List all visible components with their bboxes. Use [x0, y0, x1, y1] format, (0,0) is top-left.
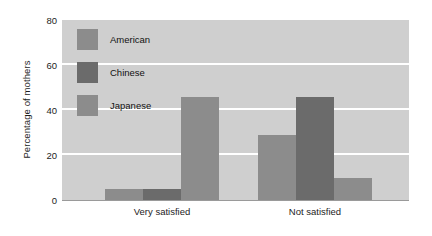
legend-label-american: American	[110, 34, 150, 45]
bar-very-satisfied-japanese	[181, 97, 219, 201]
gridline-20	[62, 153, 409, 155]
y-tick-label-60: 60	[0, 60, 57, 71]
y-tick-label-0: 0	[0, 195, 57, 206]
bar-very-satisfied-chinese	[143, 189, 181, 200]
bar-very-satisfied-american	[105, 189, 143, 200]
x-tick-label-not-satisfied: Not satisfied	[289, 206, 341, 217]
legend-swatch-japanese-icon	[77, 95, 98, 116]
legend-item-chinese: Chinese	[77, 61, 145, 83]
legend-label-japanese: Japanese	[110, 100, 151, 111]
y-tick-label-80: 80	[0, 15, 57, 26]
legend-item-american: American	[77, 28, 150, 50]
legend-item-japanese: Japanese	[77, 94, 151, 116]
legend-swatch-american-icon	[77, 29, 98, 50]
x-axis-baseline	[62, 200, 409, 201]
bar-chart-figure: Percentage of mothers 80 60 40 20 0 Amer…	[0, 0, 432, 236]
bar-not-satisfied-american	[258, 135, 296, 200]
legend-swatch-chinese-icon	[77, 62, 98, 83]
y-tick-label-20: 20	[0, 150, 57, 161]
bar-not-satisfied-japanese	[334, 178, 372, 201]
y-tick-label-40: 40	[0, 105, 57, 116]
legend-label-chinese: Chinese	[110, 67, 145, 78]
x-tick-label-very-satisfied: Very satisfied	[134, 206, 191, 217]
y-axis-tick-labels: 80 60 40 20 0	[0, 0, 57, 236]
bar-not-satisfied-chinese	[296, 97, 334, 201]
